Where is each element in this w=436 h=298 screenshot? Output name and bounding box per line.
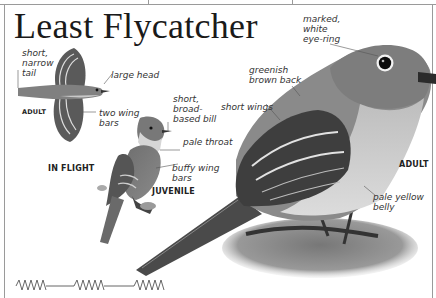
label-large-head: large head <box>111 70 159 80</box>
label-short-broad-based-bill: short, broad- based bill <box>173 94 216 124</box>
label-two-wing-bars: two wing bars <box>99 108 140 128</box>
label-greenish-brown-back: greenish brown back <box>249 65 301 85</box>
label-marked-white-eye-ring: marked, white eye-ring <box>303 14 340 44</box>
juvenile-bird-figure <box>97 116 172 244</box>
label-pale-yellow-belly: pale yellow belly <box>373 192 424 212</box>
label-pale-throat: pale throat <box>183 137 233 147</box>
caption-in-flight: IN FLIGHT <box>48 164 95 173</box>
tag-juvenile: JUVENILE <box>152 187 195 196</box>
label-buffy-wing-bars: buffy wing bars <box>172 163 219 183</box>
label-short-narrow-tail: short, narrow tail <box>22 48 54 78</box>
bird-illustrations <box>0 0 436 298</box>
label-short-wings: short wings <box>221 102 273 112</box>
tag-flight-adult: ADULT <box>22 108 46 116</box>
tag-adult: ADULT <box>399 160 429 169</box>
song-pattern-graphic <box>16 280 164 290</box>
